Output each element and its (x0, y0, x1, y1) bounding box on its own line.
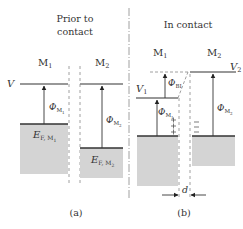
panel-b-positive-charges (171, 118, 176, 135)
panel-a-title-line2: contact (57, 26, 93, 37)
panel-a-vacuum-label: V (7, 78, 16, 89)
panel-a-m1-band (20, 124, 68, 174)
panel-b-m1-label: M1 (153, 47, 167, 60)
panel-b-phi-m2-label: ΦM2 (217, 103, 233, 116)
panel-a-phi-m2-label: ΦM2 (106, 115, 122, 128)
panel-b-v1-label: V1 (136, 83, 147, 96)
panel-b-title: In contact (164, 19, 213, 30)
panel-a-m2-label: M2 (95, 57, 109, 70)
panel-b-negative-charges (194, 122, 199, 132)
panel-b-m2-label: M2 (207, 47, 221, 60)
panel-a-phi-m1-label: ΦM1 (49, 102, 65, 115)
panel-a-caption: (a) (69, 207, 82, 218)
panel-b: In contact M1 M2 V2 V1 ΦBI ΦM1 ΦM2 (136, 19, 241, 218)
panel-b-phi-m1-label: ΦM1 (158, 107, 174, 120)
panel-b-caption: (b) (177, 207, 191, 218)
panel-b-m1-band (137, 136, 178, 186)
panel-b-m2-band (192, 136, 235, 166)
contact-potential-diagram: Prior to contact M1 M2 V EF, M1 EF, M2 Φ… (0, 0, 243, 229)
panel-a-title-line1: Prior to (57, 13, 94, 24)
panel-a: Prior to contact M1 M2 V EF, M1 EF, M2 Φ… (7, 13, 123, 218)
panel-a-m1-label: M1 (38, 57, 52, 70)
panel-b-phi-bi-label: ΦBI (168, 78, 182, 89)
panel-b-gap-label: d (182, 184, 188, 195)
